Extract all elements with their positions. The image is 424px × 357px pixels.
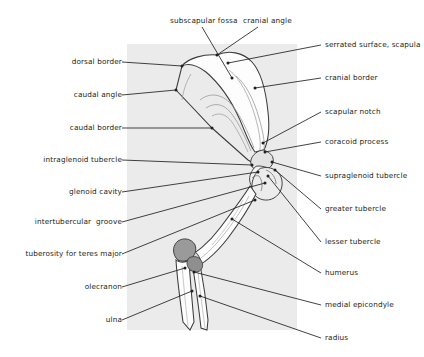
label-lesser-tubercle: lesser tubercle (325, 238, 381, 245)
leader-dot-olecranon (184, 267, 187, 270)
leader-dot-glenoid-cavity (257, 171, 260, 174)
leader-dot-coracoid-process (264, 151, 267, 154)
leader-dot-ulna (191, 290, 194, 293)
leader-dot-lesser-tubercle (267, 175, 270, 178)
label-subscapular-fossa: subscapular fossa (170, 17, 238, 24)
leader-dot-intertubercular-groove (264, 182, 267, 185)
leader-dot-caudal-border (211, 127, 214, 130)
label-serrated-surface-scapula: serrated surface, scapula (325, 41, 421, 48)
label-tuberosity-for-teres-major: tuberosity for teres major (12, 250, 122, 257)
leader-dot-cranial-border (254, 87, 257, 90)
label-cranial-border: cranial border (325, 74, 378, 81)
label-scapular-notch: scapular notch (325, 108, 381, 115)
label-cranial-angle: cranial angle (243, 17, 292, 24)
anatomical-figure: dorsal bordercaudal anglecaudal borderin… (0, 0, 424, 357)
leader-dot-medial-epicondyle (193, 271, 196, 274)
label-dorsal-border: dorsal border (54, 58, 122, 65)
label-humerus: humerus (325, 269, 358, 276)
leader-dot-radius (199, 295, 202, 298)
leader-dot-humerus (231, 218, 234, 221)
leader-dot-subscapular-fossa (231, 77, 234, 80)
leader-dot-serrated-surface-scapula (227, 62, 230, 65)
label-intertubercular-groove: intertubercular groove (20, 218, 122, 225)
radial-head (187, 257, 203, 272)
leader-dot-caudal-angle (175, 89, 178, 92)
leader-dot-tuberosity-for-teres-major (254, 199, 257, 202)
label-radius: radius (325, 334, 348, 341)
label-caudal-border: caudal border (52, 124, 122, 131)
label-greater-tubercle: greater tubercle (325, 205, 386, 212)
leader-dot-greater-tubercle (274, 169, 277, 172)
label-glenoid-cavity: glenoid cavity (53, 188, 122, 195)
label-caudal-angle: caudal angle (57, 91, 122, 98)
leader-dot-intraglenoid-tubercle (251, 164, 254, 167)
label-supraglenoid-tubercle: supraglenoid tubercle (325, 172, 407, 179)
label-ulna: ulna (90, 316, 122, 323)
leader-dot-scapular-notch (262, 142, 265, 145)
leader-dot-dorsal-border (181, 65, 184, 68)
label-olecranon: olecranon (67, 283, 122, 290)
leader-dot-supraglenoid-tubercle (271, 161, 274, 164)
leader-dot-cranial-angle (216, 54, 219, 57)
label-coracoid-process: coracoid process (325, 138, 388, 145)
label-intraglenoid-tubercle: intraglenoid tubercle (29, 156, 122, 163)
label-medial-epicondyle: medial epicondyle (325, 301, 394, 308)
